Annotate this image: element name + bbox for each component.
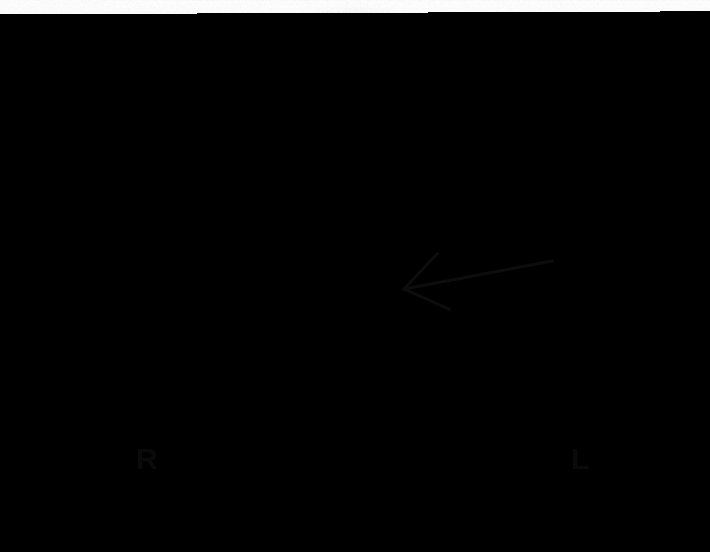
scintigraphy-image [0, 0, 710, 552]
scintigraphy-figure: R L [0, 0, 710, 552]
orientation-marker-left: L [571, 444, 589, 474]
orientation-marker-right: R [136, 444, 158, 474]
